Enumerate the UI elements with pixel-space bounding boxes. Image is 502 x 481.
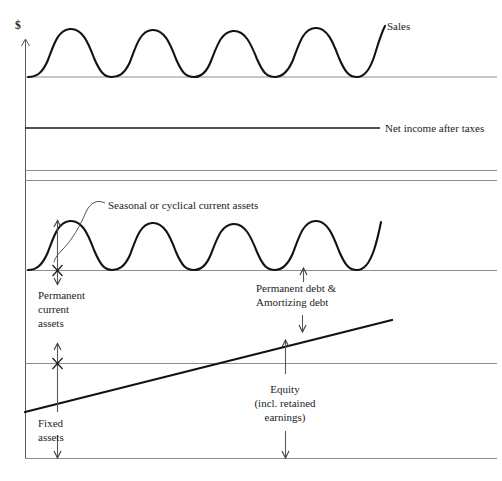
permanent-debt-label-line1: Permanent debt & <box>256 282 336 294</box>
equity-label-line3: earnings) <box>265 411 306 424</box>
permanent-debt-label-line2: Amortizing debt <box>256 296 328 308</box>
permanent-current-assets-marker <box>53 221 63 285</box>
equity-bottom-pointer-icon <box>282 431 289 458</box>
fixed-assets-label-line1: Fixed <box>38 417 64 429</box>
y-axis <box>22 39 30 458</box>
net-income-label: Net income after taxes <box>385 122 484 134</box>
seasonal-assets-label: Seasonal or cyclical current assets <box>108 199 258 211</box>
permanent-debt-down-arrow-icon <box>299 315 306 332</box>
current-assets-curve <box>28 221 381 270</box>
financial-structure-diagram: $ Sales Net income after taxes Seasonal … <box>0 0 502 481</box>
sales-label: Sales <box>387 20 410 32</box>
equity-label-line2: (incl. retained <box>254 397 316 410</box>
fixed-assets-label-line2: assets <box>38 431 64 443</box>
equity-arrow-icon <box>282 340 289 374</box>
currency-axis-label: $ <box>15 19 21 31</box>
figure-root: $ Sales Net income after taxes Seasonal … <box>0 0 502 481</box>
seasonal-assets-leader-line <box>54 201 105 262</box>
permanent-current-assets-label-line3: assets <box>38 317 64 329</box>
equity-label-line1: Equity <box>270 383 300 395</box>
permanent-current-assets-label-line2: current <box>38 303 69 315</box>
sales-curve <box>28 26 385 77</box>
permanent-capital-trend-line <box>25 320 392 412</box>
permanent-current-assets-label-line1: Permanent <box>38 289 85 301</box>
